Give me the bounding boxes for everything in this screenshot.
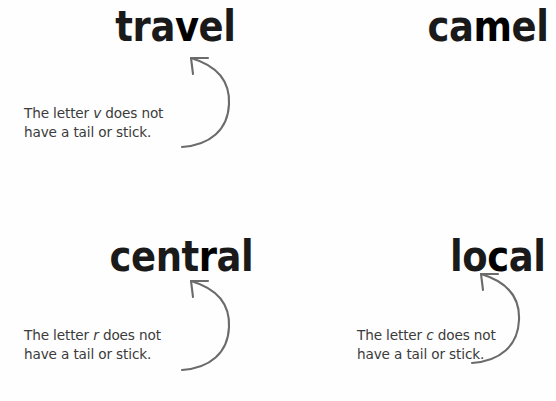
word-travel-prefix: tra (115, 2, 175, 51)
curved-arrow-up-left-icon (180, 275, 240, 375)
word-central-target-letter: r (198, 232, 216, 281)
caption-travel-line1-after: does not (101, 105, 163, 121)
panel-camel: camel The letter m does not have a tail … (278, 0, 556, 200)
worksheet-page: travel The letter v does not have a tail… (0, 0, 556, 401)
arrow-curve (182, 281, 229, 370)
curved-arrow-up-left-icon (180, 52, 240, 152)
word-travel: travel (115, 6, 235, 48)
word-travel-suffix: el (198, 2, 235, 51)
word-travel-target-letter: v (174, 2, 198, 51)
caption-local-line1: The letter c does not (357, 326, 496, 345)
panel-central: central The letter r does not have a tai… (0, 200, 278, 400)
arrow-head-stroke-1 (191, 281, 193, 297)
caption-travel-line2: have a tail or stick. (24, 123, 163, 142)
caption-local: The letter c does not have a tail or sti… (357, 326, 496, 364)
arrow-curve (182, 58, 229, 147)
caption-central-line1: The letter r does not (24, 326, 161, 345)
caption-local-letter: c (426, 327, 433, 343)
arrow-head-stroke-1 (481, 274, 483, 290)
caption-central-line1-after: does not (99, 327, 161, 343)
caption-local-line2: have a tail or stick. (357, 345, 496, 364)
caption-travel-line1-before: The letter (24, 105, 93, 121)
caption-local-line1-after: does not (434, 327, 496, 343)
caption-central-line1-before: The letter (24, 327, 93, 343)
caption-travel-line1: The letter v does not (24, 104, 163, 123)
arrow-head-stroke-1 (191, 58, 193, 74)
word-camel-suffix: el (511, 2, 548, 51)
caption-travel: The letter v does not have a tail or sti… (24, 104, 163, 142)
word-camel: camel (427, 6, 548, 48)
word-camel-prefix: ca (427, 2, 473, 51)
panel-travel: travel The letter v does not have a tail… (0, 0, 278, 200)
panel-local: local The letter c does not have a tail … (278, 200, 556, 400)
word-central: central (109, 236, 253, 278)
word-central-suffix: al (216, 232, 253, 281)
caption-local-line1-before: The letter (357, 327, 426, 343)
word-central-prefix: cent (109, 232, 198, 281)
caption-central: The letter r does not have a tail or sti… (24, 326, 161, 364)
word-camel-target-letter: m (473, 2, 511, 51)
caption-central-line2: have a tail or stick. (24, 345, 161, 364)
